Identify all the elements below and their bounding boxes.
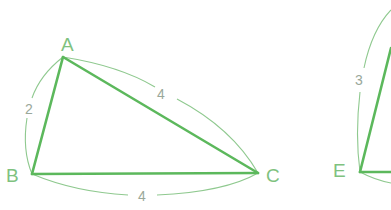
vertex-label-a: A <box>61 34 74 55</box>
edge-bc <box>32 173 258 174</box>
side-length-bc: 4 <box>138 188 146 204</box>
triangle-abc <box>32 57 258 174</box>
arc-ab-lower <box>25 118 32 174</box>
vertex-label-b: B <box>6 165 19 186</box>
arc-bc-left <box>32 174 128 195</box>
side-length-de: 3 <box>355 72 363 88</box>
edge-ac <box>63 57 258 173</box>
arc-bc-right <box>157 173 258 195</box>
side-length-ab: 2 <box>25 101 33 117</box>
side-length-ac: 4 <box>157 86 165 102</box>
triangle-diagram: A B C 2 4 4 E 3 <box>0 0 391 210</box>
arc-ac-left <box>63 57 155 87</box>
arc-de-lower <box>358 92 361 172</box>
triangle-def-partial <box>358 10 391 183</box>
arc-ac-right <box>177 99 258 173</box>
vertex-label-e: E <box>333 160 346 181</box>
edge-ab <box>32 57 63 174</box>
arc-ef-start <box>360 172 391 183</box>
vertex-label-c: C <box>266 165 280 186</box>
